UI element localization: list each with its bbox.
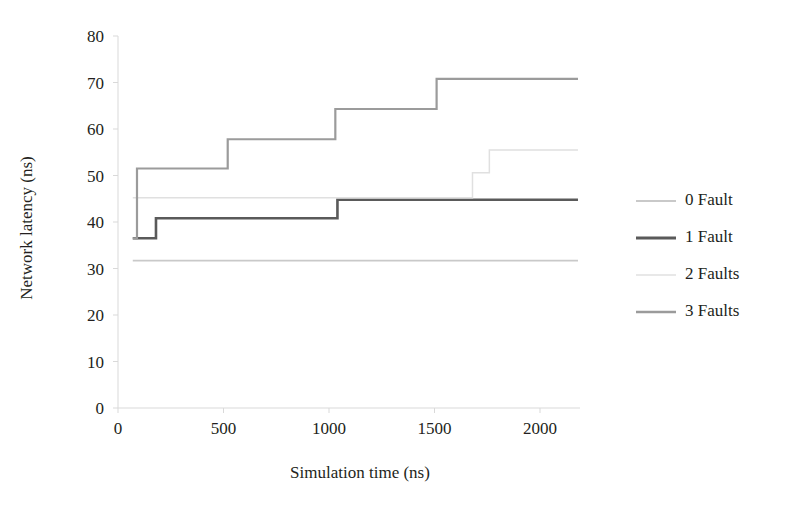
chart-legend: 0 Fault1 Fault2 Faults3 Faults — [636, 190, 739, 320]
y-axis-tick-label: 80 — [87, 27, 104, 46]
y-axis-tick-label: 20 — [87, 306, 104, 325]
latency-line-chart: 01020304050607080 0500100015002000 Simul… — [0, 0, 794, 512]
y-axis-tick-label: 0 — [96, 399, 105, 418]
legend-label-0-fault: 0 Fault — [685, 190, 733, 209]
legend-label-3-faults: 3 Faults — [685, 301, 739, 320]
x-axis-tick-label: 1000 — [312, 419, 346, 438]
y-axis-tick-label: 10 — [87, 353, 104, 372]
y-axis-tick-label: 40 — [87, 213, 104, 232]
plot-area-background — [118, 36, 580, 408]
x-axis-tick-label: 2000 — [523, 419, 557, 438]
x-axis-tick-label: 0 — [114, 419, 123, 438]
y-axis-tick-label: 30 — [87, 260, 104, 279]
y-axis-title: Network latency (ns) — [17, 156, 36, 300]
legend-label-1-fault: 1 Fault — [685, 227, 733, 246]
y-axis-tick-labels: 01020304050607080 — [87, 27, 118, 418]
x-axis-tick-label: 500 — [211, 419, 237, 438]
x-axis-tick-labels: 0500100015002000 — [114, 408, 557, 438]
x-axis-title: Simulation time (ns) — [290, 463, 430, 482]
y-axis-tick-label: 60 — [87, 120, 104, 139]
legend-label-2-faults: 2 Faults — [685, 264, 739, 283]
x-axis-tick-label: 1500 — [418, 419, 452, 438]
y-axis-tick-label: 70 — [87, 74, 104, 93]
y-axis-tick-label: 50 — [87, 167, 104, 186]
chart-container: 01020304050607080 0500100015002000 Simul… — [0, 0, 794, 512]
